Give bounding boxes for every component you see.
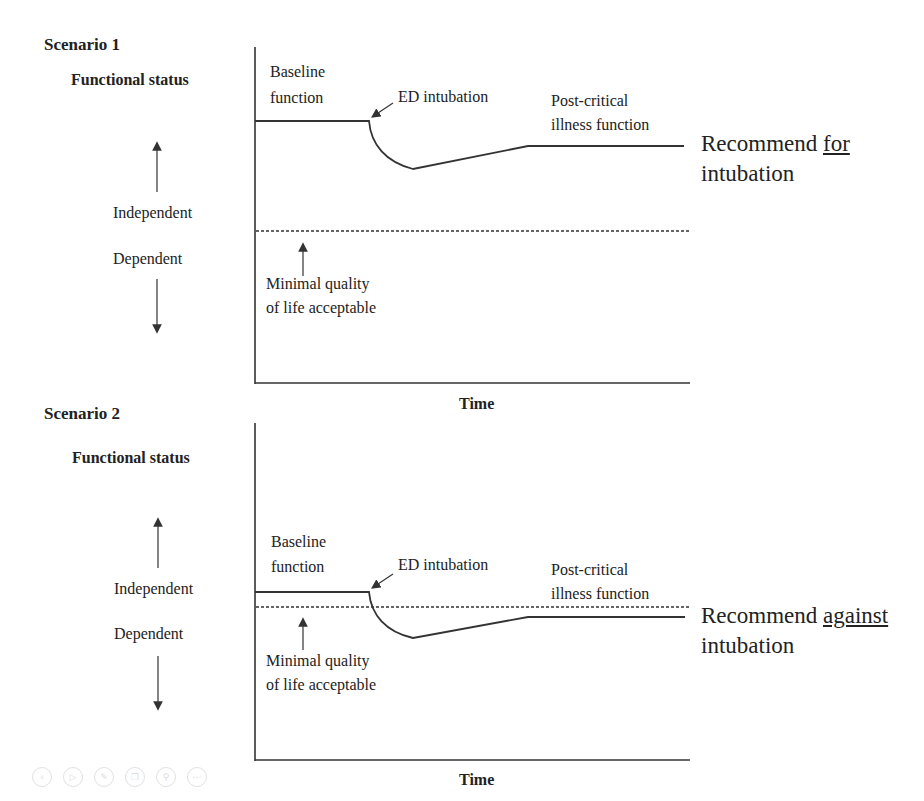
play-icon[interactable]: ▷ — [63, 767, 83, 787]
scenario2-baseline-label-1: Baseline — [271, 533, 326, 551]
scenario1-y-axis-label: Functional status — [71, 71, 189, 89]
scenario1-up-label: Independent — [113, 204, 192, 222]
scenario2-recommendation: Recommend against — [701, 603, 888, 629]
scenario2-y-axis-label: Functional status — [72, 449, 190, 467]
more-icon[interactable]: ⋯ — [187, 767, 207, 787]
scenario2-title: Scenario 2 — [44, 404, 120, 424]
scenario2-threshold-label-2: of life acceptable — [266, 676, 376, 694]
scenario2-recommendation-line2: intubation — [701, 633, 794, 659]
scenario1-recommendation: Recommend for — [701, 131, 850, 157]
scenario2-threshold-label-1: Minimal quality — [266, 652, 370, 670]
zoom-icon[interactable]: ⚲ — [156, 767, 176, 787]
scenario2-recommendation-prefix: Recommend — [701, 603, 823, 628]
scenario2-post-label-1: Post-critical — [551, 561, 628, 579]
scenario1-x-axis-label: Time — [459, 395, 494, 413]
scenario1-recommendation-emphasis: for — [823, 131, 850, 156]
scenario2-event-pointer — [375, 574, 393, 586]
scenario1-title: Scenario 1 — [44, 35, 120, 55]
pen-icon[interactable]: ✎ — [94, 767, 114, 787]
scenario1-post-label-1: Post-critical — [551, 92, 628, 110]
scenario2-down-label: Dependent — [114, 625, 183, 643]
scenario1-recommendation-prefix: Recommend — [701, 131, 823, 156]
slideshow-toolbar: ‹ ▷ ✎ ❐ ⚲ ⋯ — [32, 767, 207, 787]
scenario1-threshold-label-1: Minimal quality — [266, 275, 370, 293]
scenario2-baseline-label-2: function — [271, 558, 324, 576]
scenario1-baseline-label-2: function — [270, 89, 323, 107]
scenario1-recommendation-line2: intubation — [701, 161, 794, 187]
scenario1-event-label: ED intubation — [398, 88, 488, 106]
scenario2-up-label: Independent — [114, 580, 193, 598]
scenario1-down-label: Dependent — [113, 250, 182, 268]
scenario1-post-label-2: illness function — [551, 116, 649, 134]
back-icon[interactable]: ‹ — [32, 767, 52, 787]
scenario1-event-pointer — [375, 103, 393, 115]
scenario2-recommendation-emphasis: against — [823, 603, 888, 628]
copy-icon[interactable]: ❐ — [125, 767, 145, 787]
scenario2-x-axis-label: Time — [459, 771, 494, 789]
scenario1-baseline-label-1: Baseline — [270, 63, 325, 81]
scenario2-post-label-2: illness function — [551, 585, 649, 603]
scenario2-event-label: ED intubation — [398, 556, 488, 574]
scenario1-threshold-label-2: of life acceptable — [266, 299, 376, 317]
